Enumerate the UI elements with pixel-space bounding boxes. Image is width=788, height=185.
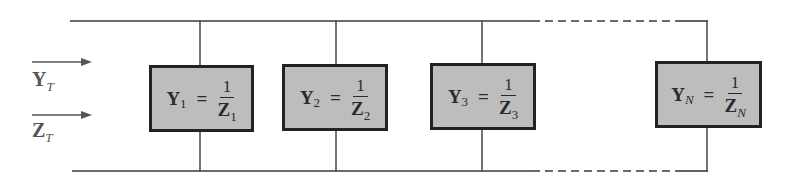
admittance-box-1: Y1 = 1 Z1 [149, 65, 254, 132]
equation-3: Y3 = 1 Z3 [448, 76, 518, 117]
admittance-box-3: Y3 = 1 Z3 [430, 63, 536, 130]
admittance-box-2: Y2 = 1 Z2 [282, 64, 388, 131]
arrow-zt-icon [32, 111, 92, 119]
equation-1: Y1 = 1 Z1 [166, 78, 236, 119]
fraction-1: 1 Z1 [217, 78, 236, 119]
admittance-box-n: YN = 1 ZN [655, 61, 762, 128]
equation-n: YN = 1 ZN [671, 74, 746, 115]
arrow-yt-icon [32, 58, 92, 66]
equation-2: Y2 = 1 Z2 [300, 77, 370, 118]
fraction-3: 1 Z3 [499, 76, 518, 117]
label-zt: ZT [32, 119, 53, 142]
fraction-2: 1 Z2 [351, 77, 370, 118]
fraction-n: 1 ZN [724, 74, 745, 115]
label-yt: YT [32, 68, 54, 91]
